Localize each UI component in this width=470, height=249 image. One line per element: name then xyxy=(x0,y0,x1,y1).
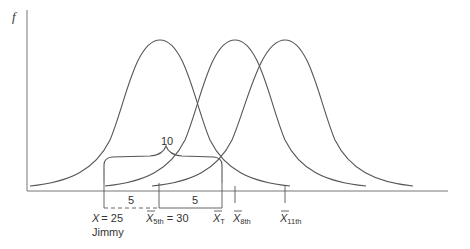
mean-5th-label: X5th= 30 xyxy=(145,212,189,226)
brace-label: 10 xyxy=(161,135,173,147)
jimmy-label: Jimmy xyxy=(92,226,124,238)
mean-11th-label: X11th xyxy=(279,212,301,226)
gap-left-label: 5 xyxy=(128,194,134,206)
curve-5th xyxy=(30,40,290,186)
y-axis-label: f xyxy=(12,9,18,24)
mean-8th-label: X8th xyxy=(232,212,251,226)
curve-11th xyxy=(152,40,413,186)
x-score-label: X= 25 xyxy=(91,212,123,224)
curve-8th xyxy=(105,40,366,186)
distribution-diagram: f 10 5 5 X= 25 Jimmy X5th= 30 XT X8th X1… xyxy=(0,0,470,249)
brace-10 xyxy=(104,146,222,183)
gap-right-label: 5 xyxy=(192,194,198,206)
mean-T-label: XT xyxy=(212,212,225,226)
